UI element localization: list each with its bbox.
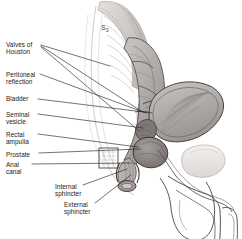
leader-bladder — [38, 99, 152, 113]
label-seminal-vesicle: Seminal vesicle — [6, 111, 29, 126]
external-sphincter — [118, 181, 136, 192]
label-rectal-ampulla: Rectal ampulla — [6, 131, 29, 146]
label-valves-of-houston: Valves of Houston — [6, 41, 32, 56]
pubic-symphysis — [182, 145, 225, 177]
label-internal-sphincter: Internal sphincter — [55, 183, 81, 198]
bladder — [149, 82, 224, 142]
label-external-sphincter: External sphincter — [64, 201, 90, 216]
leader-prostate — [39, 149, 140, 153]
anatomy-figure: S3 Valves of HoustonPeritoneal reflectio… — [0, 0, 242, 239]
label-anal-canal: Anal canal — [6, 161, 22, 176]
leader-anal-canal — [32, 163, 131, 164]
prostate — [133, 137, 168, 168]
label-prostate: Prostate — [6, 151, 30, 158]
leader-rectal-ampulla — [38, 134, 138, 147]
vertebra-subscript: 3 — [106, 27, 109, 33]
vertebra-label-s3: S3 — [101, 24, 108, 33]
label-peritoneal-reflection: Peritoneal reflection — [6, 71, 35, 86]
label-bladder: Bladder — [6, 95, 28, 102]
anatomy-illustration — [0, 0, 242, 239]
penis — [168, 176, 237, 239]
